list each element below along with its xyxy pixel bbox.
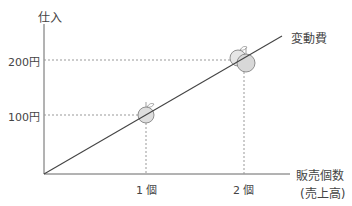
y-tick-200: 200円	[8, 53, 40, 69]
x-tick-1: 1 個	[136, 181, 158, 197]
y-tick-100: 100円	[8, 108, 40, 124]
apple-icon	[138, 102, 154, 123]
x-tick-2: 2 個	[233, 181, 255, 197]
line-label: 変動費	[291, 29, 327, 46]
x-axis-sublabel: (売上高)	[300, 184, 345, 201]
variable-cost-line	[44, 36, 282, 174]
x-axis-label: 販売個数	[296, 166, 344, 183]
y-axis-label: 仕入	[38, 8, 62, 25]
